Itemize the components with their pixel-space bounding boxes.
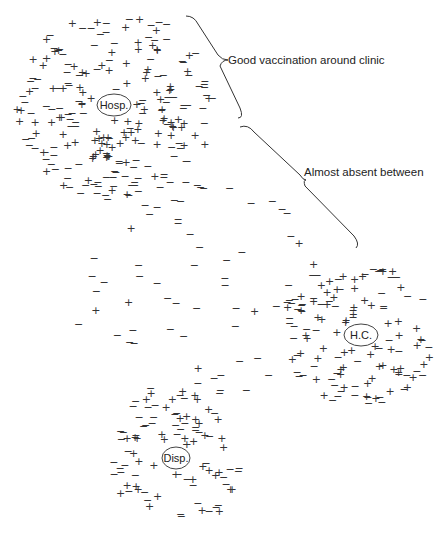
vaccinated-plus-symbol: + bbox=[319, 342, 328, 355]
unvaccinated-minus-symbol: − bbox=[140, 199, 149, 212]
vaccinated-plus-symbol: + bbox=[362, 390, 371, 403]
unvaccinated-minus-symbol: − bbox=[272, 300, 281, 313]
unvaccinated-minus-symbol: − bbox=[278, 203, 287, 216]
unvaccinated-minus-symbol: − bbox=[110, 37, 119, 50]
unvaccinated-minus-symbol: − bbox=[293, 349, 302, 362]
annotation-almost-absent: Almost absent between bbox=[304, 166, 424, 178]
facility-health-centre-label: H.C. bbox=[350, 329, 372, 341]
facility-hospital: Hosp. bbox=[97, 94, 131, 116]
unvaccinated-minus-symbol: − bbox=[136, 97, 145, 110]
vaccinated-plus-symbol: + bbox=[47, 116, 56, 129]
unvaccinated-minus-symbol: − bbox=[78, 22, 87, 35]
annotation-good-vaccination: Good vaccination around clinic bbox=[228, 54, 385, 66]
unvaccinated-minus-symbol: − bbox=[350, 389, 359, 402]
unvaccinated-minus-symbol: − bbox=[220, 279, 229, 292]
unvaccinated-minus-symbol: − bbox=[66, 120, 75, 133]
vaccinated-plus-symbol: + bbox=[340, 346, 349, 359]
unvaccinated-minus-symbol: − bbox=[120, 459, 129, 472]
unvaccinated-minus-symbol: − bbox=[182, 155, 191, 168]
unvaccinated-minus-symbol: − bbox=[222, 254, 231, 267]
unvaccinated-minus-symbol: − bbox=[235, 355, 244, 368]
unvaccinated-minus-symbol: − bbox=[140, 486, 149, 499]
vaccinated-plus-symbol: + bbox=[38, 59, 47, 72]
unvaccinated-minus-symbol: − bbox=[153, 70, 162, 83]
unvaccinated-minus-symbol: − bbox=[152, 277, 161, 290]
vaccinated-plus-symbol: + bbox=[75, 81, 84, 94]
vaccinated-plus-symbol: + bbox=[30, 116, 39, 129]
vaccinated-plus-symbol: + bbox=[159, 114, 168, 127]
unvaccinated-minus-symbol: − bbox=[170, 194, 179, 207]
unvaccinated-minus-symbol: − bbox=[399, 383, 408, 396]
unvaccinated-minus-symbol: − bbox=[289, 332, 298, 345]
vaccinated-plus-symbol: + bbox=[154, 127, 163, 140]
unvaccinated-minus-symbol: − bbox=[375, 391, 384, 404]
unvaccinated-minus-symbol: − bbox=[146, 382, 155, 395]
vaccinated-plus-symbol: + bbox=[322, 286, 331, 299]
unvaccinated-minus-symbol: − bbox=[190, 259, 199, 272]
unvaccinated-minus-symbol: − bbox=[167, 141, 176, 154]
unvaccinated-minus-symbol: − bbox=[30, 142, 39, 155]
unvaccinated-minus-symbol: − bbox=[165, 176, 174, 189]
unvaccinated-minus-symbol: − bbox=[131, 469, 140, 482]
unvaccinated-minus-symbol: − bbox=[193, 179, 202, 192]
vaccinated-plus-symbol: + bbox=[91, 304, 100, 317]
unvaccinated-minus-symbol: − bbox=[94, 180, 103, 193]
vaccinated-plus-symbol: + bbox=[383, 317, 392, 330]
unvaccinated-minus-symbol: − bbox=[204, 505, 213, 518]
unvaccinated-minus-symbol: − bbox=[65, 181, 74, 194]
unvaccinated-minus-symbol: − bbox=[74, 158, 83, 171]
vaccinated-plus-symbol: + bbox=[145, 500, 154, 513]
unvaccinated-minus-symbol: − bbox=[152, 201, 161, 214]
unvaccinated-minus-symbol: − bbox=[162, 33, 171, 46]
vaccinated-plus-symbol: + bbox=[135, 13, 144, 26]
vaccinated-plus-symbol: + bbox=[350, 282, 359, 295]
unvaccinated-minus-symbol: − bbox=[113, 329, 122, 342]
unvaccinated-minus-symbol: − bbox=[332, 367, 341, 380]
vaccinated-plus-symbol: + bbox=[250, 305, 259, 318]
unvaccinated-minus-symbol: − bbox=[183, 99, 192, 112]
unvaccinated-minus-symbol: − bbox=[87, 22, 96, 35]
unvaccinated-minus-symbol: − bbox=[134, 411, 143, 424]
unvaccinated-minus-symbol: − bbox=[313, 269, 322, 282]
unvaccinated-minus-symbol: − bbox=[186, 228, 195, 241]
vaccinated-plus-symbol: + bbox=[358, 270, 367, 283]
unvaccinated-minus-symbol: − bbox=[242, 384, 251, 397]
unvaccinated-minus-symbol: − bbox=[253, 352, 262, 365]
unvaccinated-minus-symbol: − bbox=[150, 34, 159, 47]
unvaccinated-minus-symbol: − bbox=[234, 465, 243, 478]
vaccinated-plus-symbol: + bbox=[386, 385, 395, 398]
unvaccinated-minus-symbol: − bbox=[111, 166, 120, 179]
vaccinated-plus-symbol: + bbox=[150, 170, 159, 183]
unvaccinated-minus-symbol: − bbox=[128, 324, 137, 337]
unvaccinated-minus-symbol: − bbox=[181, 176, 190, 189]
unvaccinated-minus-symbol: − bbox=[268, 195, 277, 208]
unvaccinated-minus-symbol: − bbox=[131, 429, 140, 442]
vaccinated-plus-symbol: + bbox=[388, 265, 397, 278]
unvaccinated-minus-symbol: − bbox=[46, 29, 55, 42]
vaccinated-plus-symbol: + bbox=[124, 296, 133, 309]
unvaccinated-minus-symbol: − bbox=[21, 133, 30, 146]
unvaccinated-minus-symbol: − bbox=[147, 19, 156, 32]
unvaccinated-minus-symbol: − bbox=[231, 320, 240, 333]
unvaccinated-minus-symbol: − bbox=[174, 213, 183, 226]
unvaccinated-minus-symbol: − bbox=[195, 241, 204, 254]
unvaccinated-minus-symbol: − bbox=[89, 252, 98, 265]
vaccinated-plus-symbol: + bbox=[59, 82, 68, 95]
vaccinated-plus-symbol: + bbox=[193, 393, 202, 406]
unvaccinated-minus-symbol: − bbox=[135, 270, 144, 283]
vaccinated-plus-symbol: + bbox=[171, 468, 180, 481]
unvaccinated-minus-symbol: − bbox=[102, 171, 111, 184]
unvaccinated-minus-symbol: − bbox=[424, 341, 433, 354]
vaccinated-plus-symbol: + bbox=[68, 17, 77, 30]
vaccinated-plus-symbol: + bbox=[134, 36, 143, 49]
unvaccinated-minus-symbol: − bbox=[376, 264, 385, 277]
unvaccinated-minus-symbol: − bbox=[132, 154, 141, 167]
unvaccinated-minus-symbol: − bbox=[125, 336, 134, 349]
vaccinated-plus-symbol: + bbox=[191, 129, 200, 142]
vaccinated-plus-symbol: + bbox=[161, 401, 170, 414]
unvaccinated-minus-symbol: − bbox=[63, 162, 72, 175]
unvaccinated-minus-symbol: − bbox=[394, 345, 403, 358]
vaccinated-plus-symbol: + bbox=[92, 125, 101, 138]
vaccinated-plus-symbol: + bbox=[108, 184, 117, 197]
unvaccinated-minus-symbol: − bbox=[298, 369, 307, 382]
